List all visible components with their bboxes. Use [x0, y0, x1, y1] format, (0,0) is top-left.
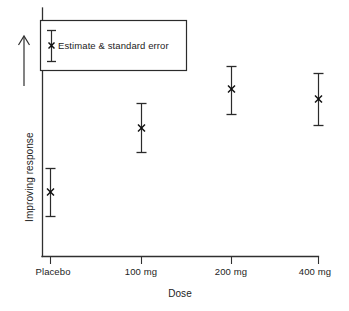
x-tick-label-100mg: 100 mg [125, 266, 157, 277]
x-tick-label-placebo: Placebo [35, 266, 70, 277]
y-axis-title: Improving response [24, 132, 35, 222]
x-axis-title: Dose [168, 288, 192, 299]
plot-area [0, 0, 349, 311]
x-axis-ticks [51, 257, 319, 265]
legend-label: Estimate & standard error [58, 40, 169, 51]
data-point-placebo [46, 169, 56, 217]
x-tick-label-200mg: 200 mg [215, 266, 247, 277]
data-point-100mg [137, 104, 147, 153]
data-point-200mg [227, 67, 237, 115]
x-tick-label-400mg: 400 mg [299, 266, 331, 277]
data-point-400mg [314, 74, 324, 126]
chart-container: Estimate & standard error Placebo 100 mg… [0, 0, 349, 311]
y-direction-arrow-icon [19, 36, 30, 86]
